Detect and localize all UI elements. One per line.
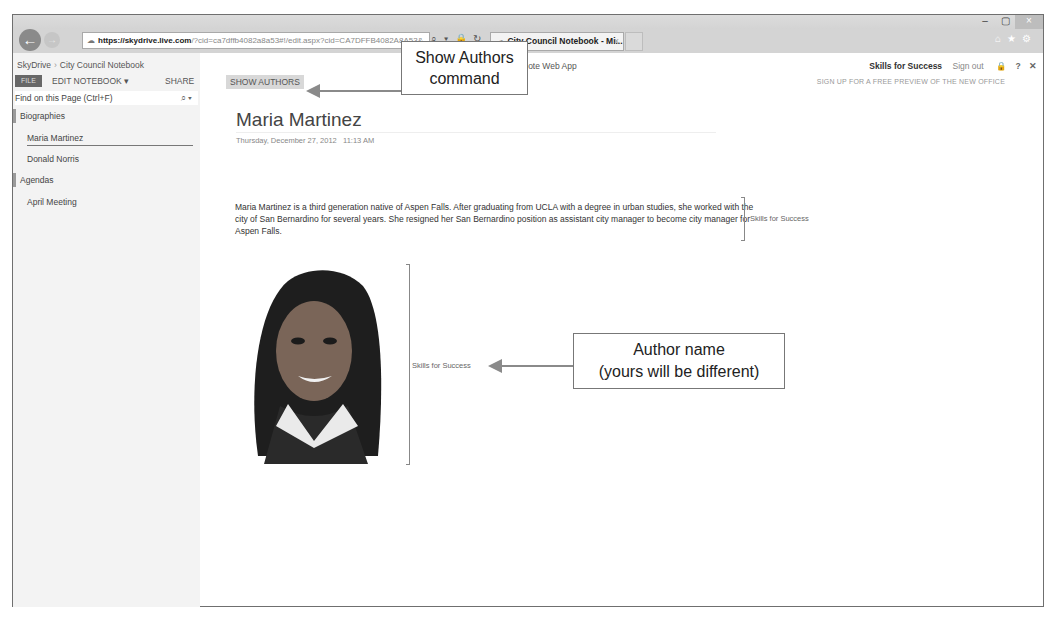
browser-toolbar: ← → ☁https://skydrive.live.com/?cid=ca7d…: [13, 29, 1043, 53]
page-time: 11:13 AM: [343, 136, 374, 145]
minimize-button[interactable]: –: [975, 15, 995, 29]
author-name-callout: Author name (yours will be different): [573, 333, 785, 389]
search-icon[interactable]: ⌕ ▾: [181, 91, 192, 105]
maximize-button[interactable]: ▢: [995, 15, 1015, 29]
file-tab[interactable]: FILE: [15, 75, 42, 87]
find-on-page-input[interactable]: Find on this Page (Ctrl+F) ⌕ ▾: [15, 91, 198, 105]
url-rest: /?cid=ca7dffb4082a8a53#!/edit.aspx?cid=C…: [191, 36, 423, 45]
browser-window: – ▢ × ← → ☁https://skydrive.live.com/?ci…: [12, 14, 1044, 607]
back-arrow-icon: ←: [23, 31, 38, 48]
image-author-bracket: [406, 264, 410, 465]
address-bar[interactable]: ☁https://skydrive.live.com/?cid=ca7dffb4…: [82, 32, 430, 49]
page-item-maria-martinez[interactable]: Maria Martinez: [27, 133, 193, 146]
image-author-name: Skills for Success: [412, 361, 471, 370]
cloud-icon: ☁: [87, 36, 95, 45]
browser-right-icons: ⌂★⚙: [995, 33, 1037, 44]
window-controls: – ▢ ×: [975, 15, 1043, 29]
product-name: Note Web App: [522, 61, 577, 71]
author-name-arrow-head: [488, 359, 502, 373]
share-tab[interactable]: SHARE: [165, 75, 194, 87]
close-window-button[interactable]: ×: [1015, 15, 1043, 29]
author-name-arrow-line: [501, 365, 573, 367]
breadcrumb-separator: ›: [54, 60, 57, 70]
back-button[interactable]: ←: [19, 29, 41, 51]
section-label: Biographies: [20, 111, 65, 121]
portrait-image: [248, 266, 384, 464]
url-prefix: https://: [98, 36, 125, 45]
callout-line2: command: [402, 68, 527, 89]
callout-line1: Show Authors: [402, 47, 527, 68]
new-tab-button[interactable]: [625, 32, 643, 51]
title-divider: [236, 132, 716, 133]
account-bar: Skills for Success Sign out 🔒 ? ✕: [869, 61, 1037, 71]
lock-icon[interactable]: 🔒: [996, 61, 1007, 71]
url-domain: skydrive.live.com: [125, 36, 192, 45]
breadcrumb-skydrive[interactable]: SkyDrive: [17, 60, 51, 70]
paragraph-author-name: Skills for Success: [750, 214, 809, 223]
sign-out-link[interactable]: Sign out: [952, 61, 983, 71]
show-authors-arrow-head: [306, 84, 320, 98]
edit-notebook-tab[interactable]: EDIT NOTEBOOK ▾: [52, 75, 129, 87]
page-date: Thursday, December 27, 2012: [236, 136, 337, 145]
home-icon[interactable]: ⌂: [995, 33, 1007, 44]
page-datetime: Thursday, December 27, 2012 11:13 AM: [236, 136, 374, 145]
forward-button[interactable]: →: [44, 32, 60, 48]
help-icon[interactable]: ?: [1015, 61, 1020, 71]
callout-line2: (yours will be different): [574, 361, 784, 383]
callout-line1: Author name: [574, 339, 784, 361]
page-item-donald-norris[interactable]: Donald Norris: [27, 154, 79, 164]
section-color-bar: [13, 173, 16, 187]
onenote-web-app: SkyDrive›City Council Notebook FILE EDIT…: [13, 53, 1043, 607]
breadcrumb-notebook[interactable]: City Council Notebook: [60, 60, 144, 70]
promo-link[interactable]: SIGN UP FOR A FREE PREVIEW OF THE NEW OF…: [817, 78, 1005, 85]
breadcrumb: SkyDrive›City Council Notebook: [17, 60, 144, 70]
close-icon[interactable]: ✕: [1029, 61, 1037, 71]
page-title[interactable]: Maria Martinez: [236, 109, 362, 131]
settings-gear-icon[interactable]: ⚙: [1022, 33, 1037, 44]
section-label: Agendas: [20, 175, 54, 185]
biography-paragraph[interactable]: Maria Martinez is a third generation nat…: [235, 201, 755, 237]
show-authors-button[interactable]: SHOW AUTHORS: [226, 75, 304, 89]
favorites-star-icon[interactable]: ★: [1007, 33, 1022, 44]
show-authors-callout: Show Authors command: [401, 41, 528, 95]
section-color-bar: [13, 109, 16, 123]
author-bracket: [741, 197, 745, 241]
navigation-pane: SkyDrive›City Council Notebook FILE EDIT…: [13, 53, 200, 607]
tab-close-icon[interactable]: ×: [614, 33, 619, 50]
page-item-april-meeting[interactable]: April Meeting: [27, 197, 77, 207]
show-authors-arrow-line: [318, 90, 401, 92]
profile-photo[interactable]: [248, 266, 384, 464]
find-placeholder: Find on this Page (Ctrl+F): [15, 93, 113, 103]
forward-arrow-icon: →: [47, 34, 57, 45]
user-name[interactable]: Skills for Success: [869, 61, 942, 71]
